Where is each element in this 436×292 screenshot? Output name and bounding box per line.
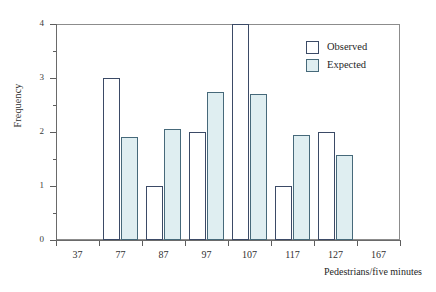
bar-observed xyxy=(318,132,335,240)
bar-observed xyxy=(146,186,163,240)
bar-expected xyxy=(336,155,353,240)
legend-item-observed: Observed xyxy=(306,38,402,56)
x-tick xyxy=(400,241,401,246)
y-tick-label: 3 xyxy=(14,73,44,82)
x-tick-label: 37 xyxy=(58,249,98,260)
y-tick-minor xyxy=(53,159,56,160)
x-tick xyxy=(99,241,100,246)
bar-observed xyxy=(103,78,120,240)
x-tick-label: 87 xyxy=(144,249,184,260)
y-tick-label: 0 xyxy=(14,235,44,244)
x-tick-label: 97 xyxy=(187,249,227,260)
bar-observed xyxy=(275,186,292,240)
x-tick xyxy=(228,241,229,246)
bar-chart: Frequency Pedestrians/five minutes 01234… xyxy=(0,0,436,292)
bar-expected xyxy=(121,137,138,240)
y-tick-minor xyxy=(53,213,56,214)
bar-expected xyxy=(250,94,267,240)
y-tick-minor xyxy=(53,105,56,106)
x-axis-title: Pedestrians/five minutes xyxy=(324,266,422,277)
x-tick xyxy=(314,241,315,246)
y-axis-line xyxy=(56,24,57,241)
x-tick xyxy=(271,241,272,246)
x-tick xyxy=(142,241,143,246)
y-tick-label: 1 xyxy=(14,181,44,190)
y-tick-label: 2 xyxy=(14,127,44,136)
x-tick-label: 127 xyxy=(316,249,356,260)
y-tick-major xyxy=(50,78,56,79)
legend-swatch-expected-icon xyxy=(306,59,319,72)
y-tick-major xyxy=(50,132,56,133)
y-tick-label: 4 xyxy=(14,19,44,28)
y-tick-major xyxy=(50,24,56,25)
x-tick-label: 107 xyxy=(230,249,270,260)
legend-label-observed: Observed xyxy=(327,41,367,53)
bar-observed xyxy=(232,24,249,240)
legend-swatch-observed-icon xyxy=(306,41,319,54)
x-tick xyxy=(357,241,358,246)
y-tick-major xyxy=(50,186,56,187)
legend: Observed Expected xyxy=(306,38,402,74)
bar-observed xyxy=(189,132,206,240)
x-tick xyxy=(56,241,57,246)
x-tick xyxy=(185,241,186,246)
bar-expected xyxy=(293,135,310,240)
y-tick-minor xyxy=(53,51,56,52)
x-tick-label: 167 xyxy=(359,249,399,260)
x-tick-label: 77 xyxy=(101,249,141,260)
bar-expected xyxy=(207,92,224,241)
legend-label-expected: Expected xyxy=(327,59,366,71)
legend-item-expected: Expected xyxy=(306,56,402,74)
x-tick-label: 117 xyxy=(273,249,313,260)
bar-expected xyxy=(164,129,181,240)
